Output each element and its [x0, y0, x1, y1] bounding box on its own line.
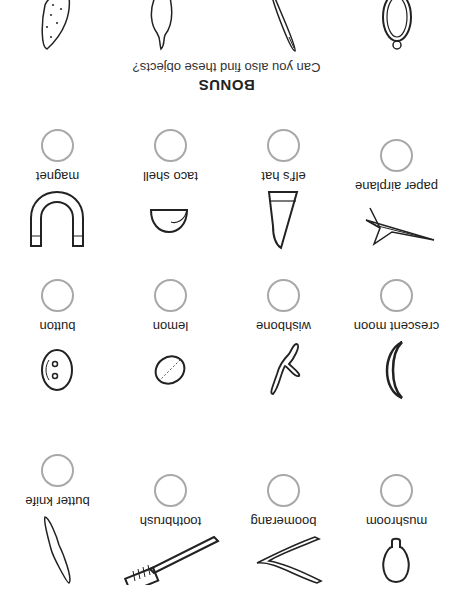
item-lemon: lemon	[114, 279, 227, 400]
checkbox-circle[interactable]	[267, 474, 300, 507]
item-label: magnet	[36, 168, 79, 184]
hand-mirror-icon	[377, 0, 417, 53]
crescent-moon-icon	[377, 340, 417, 400]
checkbox-circle[interactable]	[380, 474, 413, 507]
checkbox-circle[interactable]	[380, 139, 413, 172]
lemon-icon	[151, 340, 191, 400]
elfs-hat-icon	[264, 190, 304, 250]
item-label: button	[39, 318, 75, 334]
item-wishbone: wishbone	[227, 279, 340, 400]
checkbox-circle[interactable]	[380, 279, 413, 312]
checkbox-circle[interactable]	[154, 129, 187, 162]
item-mushroom: mushroom	[340, 474, 453, 585]
item-label: boomerang	[251, 513, 317, 529]
item-label: lemon	[153, 318, 188, 334]
boomerang-icon	[244, 535, 324, 585]
checkbox-circle[interactable]	[267, 279, 300, 312]
pear-icon	[143, 0, 183, 53]
checkbox-circle[interactable]	[41, 129, 74, 162]
mushroom-icon	[377, 535, 417, 585]
item-toothbrush: toothbrush	[114, 474, 227, 585]
item-magnet: magnet	[1, 129, 114, 250]
checkbox-circle[interactable]	[154, 279, 187, 312]
item-label: crescent moon	[354, 318, 439, 334]
item-label: paper airplane	[355, 178, 438, 194]
pickle-icon	[35, 0, 75, 53]
item-crescent-moon: crescent moon	[340, 279, 453, 400]
checkbox-circle[interactable]	[41, 279, 74, 312]
checkbox-circle[interactable]	[41, 454, 74, 487]
bonus-heading: BONUS	[0, 77, 453, 94]
hidden-pictures-page: mushroom boomerang toothbrush butter kni…	[0, 0, 453, 605]
toothbrush-icon	[121, 535, 221, 585]
needle-icon	[263, 0, 303, 53]
item-elfs-hat: elf's hat	[227, 129, 340, 250]
item-label: butter knife	[25, 493, 89, 509]
wishbone-icon	[264, 340, 304, 400]
item-butter-knife: butter knife	[1, 454, 114, 585]
taco-shell-icon	[146, 190, 196, 250]
item-paper-airplane: paper airplane	[340, 139, 453, 250]
checkbox-circle[interactable]	[267, 129, 300, 162]
butter-knife-icon	[38, 515, 78, 585]
item-label: taco shell	[143, 168, 198, 184]
item-label: mushroom	[366, 513, 427, 529]
paper-airplane-icon	[357, 200, 437, 250]
button-icon	[38, 340, 78, 400]
item-label: toothbrush	[140, 513, 201, 529]
item-taco-shell: taco shell	[114, 129, 227, 250]
checkbox-circle[interactable]	[154, 474, 187, 507]
item-button: button	[1, 279, 114, 400]
item-label: elf's hat	[261, 168, 305, 184]
item-label: wishbone	[256, 318, 311, 334]
bonus-subtitle: Can you also find these objects?	[0, 60, 453, 75]
magnet-icon	[28, 190, 88, 250]
item-boomerang: boomerang	[227, 474, 340, 585]
